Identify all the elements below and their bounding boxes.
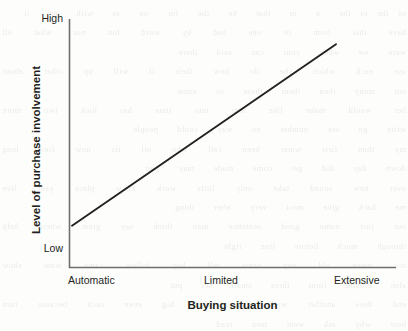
x-axis-tick-limited: Limited: [204, 274, 238, 286]
y-axis-title: Level of purchase involvement: [30, 34, 42, 266]
x-axis-tick-extensive: Extensive: [334, 274, 380, 286]
chart-figure: of the to the a in that be the for on as…: [0, 0, 408, 331]
x-axis-title: Buying situation: [69, 299, 396, 311]
x-axis-tick-automatic: Automatic: [68, 274, 115, 286]
y-axis-tick-low: Low: [44, 242, 63, 254]
data-series-line: [72, 44, 336, 226]
y-axis-tick-high: High: [41, 12, 63, 24]
